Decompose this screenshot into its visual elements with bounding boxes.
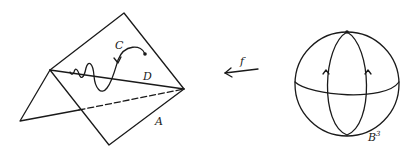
map-arrow: f: [225, 55, 258, 77]
left-meridian: [327, 32, 347, 135]
hidden-edge-dashed: [79, 89, 184, 110]
curve-c: [70, 47, 145, 91]
ball-figure: B3: [295, 30, 399, 144]
equator: [295, 82, 399, 95]
curve-c-endpoint-dot: [143, 52, 147, 56]
sphere-outline: [295, 32, 399, 136]
label-f: f: [239, 55, 246, 68]
label-c: C: [115, 39, 124, 52]
label-a: A: [154, 115, 163, 128]
north-pole-dot: [345, 30, 349, 34]
diagram-canvas: C D A f B3: [0, 0, 416, 154]
label-b3: B3: [367, 130, 381, 144]
plane-a-edge: [50, 70, 184, 145]
planes-figure: C D A: [20, 13, 184, 145]
right-meridian: [347, 32, 367, 135]
label-d: D: [142, 70, 152, 83]
